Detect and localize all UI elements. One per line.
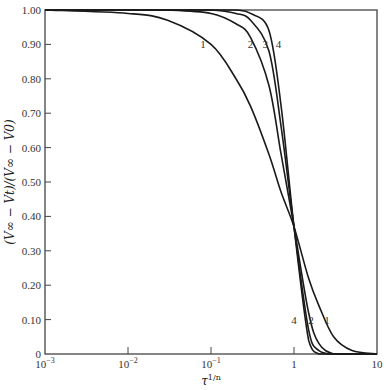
curve-2 bbox=[45, 10, 377, 354]
curve-label-4: 4 bbox=[291, 314, 297, 326]
curve-label-2: 2 bbox=[248, 38, 254, 50]
y-tick-label: 0.40 bbox=[22, 210, 42, 222]
curves bbox=[45, 10, 377, 354]
curve-4 bbox=[45, 10, 377, 354]
x-tick-label: 10−1 bbox=[201, 356, 221, 370]
curve-3 bbox=[45, 10, 377, 354]
y-tick-label: 0.80 bbox=[22, 73, 42, 85]
curve-1 bbox=[45, 10, 377, 354]
y-tick-label: 0.60 bbox=[22, 142, 42, 154]
curve-label-3: 3 bbox=[262, 38, 268, 50]
x-axis-title: τ1/n bbox=[201, 373, 221, 388]
y-axis-ticks: 00.100.200.300.400.500.600.700.800.901.0… bbox=[22, 4, 51, 360]
x-tick-label: 1 bbox=[291, 358, 297, 370]
y-tick-label: 1.00 bbox=[22, 4, 42, 16]
decay-curves-chart: 00.100.200.300.400.500.600.700.800.901.0… bbox=[0, 0, 387, 390]
y-tick-label: 0.20 bbox=[22, 279, 42, 291]
curve-label-1: 1 bbox=[200, 38, 206, 50]
x-tick-label: 10−2 bbox=[118, 356, 138, 370]
y-tick-label: 0.10 bbox=[22, 314, 42, 326]
y-tick-label: 0.70 bbox=[22, 107, 42, 119]
plot-frame bbox=[45, 10, 377, 354]
curve-label-2: 2 bbox=[308, 314, 314, 326]
x-tick-label: 10−3 bbox=[35, 356, 55, 370]
x-axis-ticks: 10−310−210−1110 bbox=[35, 347, 383, 370]
curve-label-1: 1 bbox=[324, 314, 330, 326]
y-tick-label: 0.50 bbox=[22, 176, 42, 188]
y-axis-title: (V∞ − Vt)/(V∞ − V0) bbox=[3, 119, 17, 245]
y-tick-label: 0.30 bbox=[22, 245, 42, 257]
x-tick-label: 10 bbox=[372, 358, 384, 370]
y-tick-label: 0.90 bbox=[22, 38, 42, 50]
curve-label-4: 4 bbox=[276, 38, 282, 50]
